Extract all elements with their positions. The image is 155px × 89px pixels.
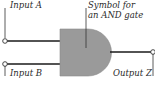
output-z-label: Output Z xyxy=(113,69,152,78)
gate-caption-line1: Symbol for xyxy=(88,1,135,10)
gate-caption-line2: an AND gate xyxy=(88,11,143,20)
input-a-terminal xyxy=(3,39,8,44)
output-z-terminal xyxy=(151,50,155,55)
input-a-label: Input A xyxy=(10,1,42,10)
input-b-label: Input B xyxy=(10,69,42,78)
input-b-terminal xyxy=(3,62,8,67)
